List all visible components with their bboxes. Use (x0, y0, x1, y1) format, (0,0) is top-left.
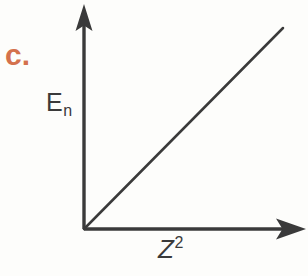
plot-area (0, 0, 308, 276)
figure-panel-c: c. En Z2 (0, 0, 308, 276)
x-axis-label-superscript: 2 (174, 234, 183, 251)
x-axis-label-base: Z (158, 234, 174, 264)
y-axis-label: En (46, 90, 72, 119)
panel-letter-label: c. (5, 40, 30, 70)
y-axis-label-subscript: n (63, 102, 72, 119)
data-line-linear (84, 28, 283, 229)
y-axis-label-base: E (46, 88, 63, 116)
x-axis-label: Z2 (158, 235, 183, 262)
